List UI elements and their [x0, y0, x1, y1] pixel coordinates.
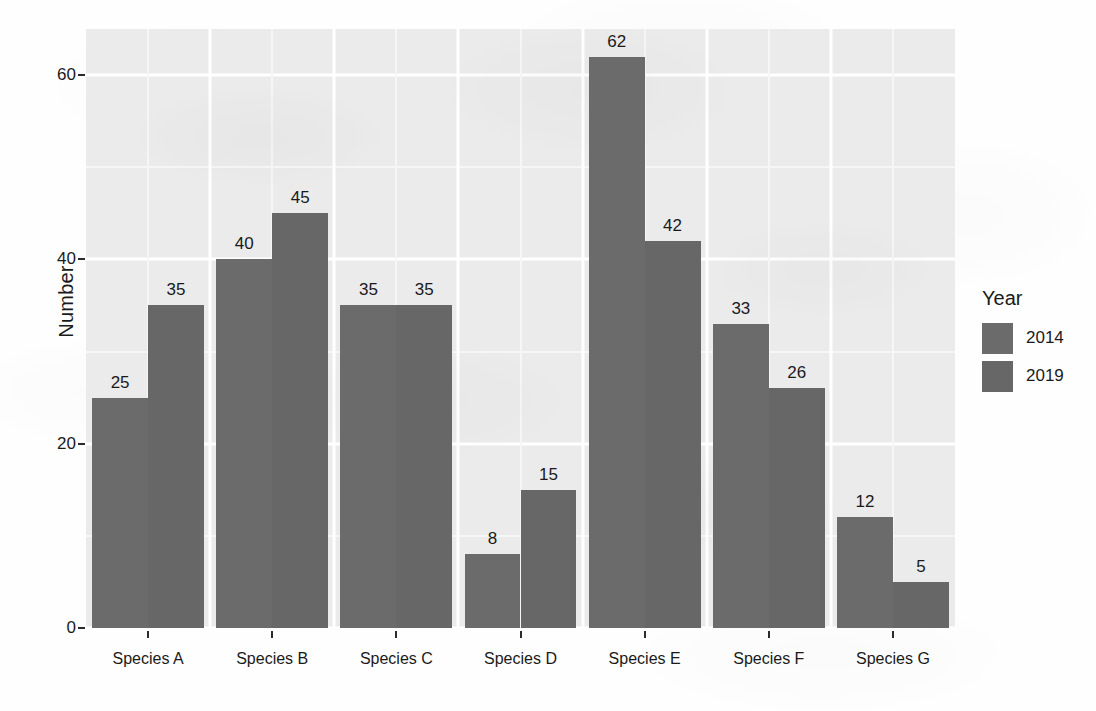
- y-axis-tick-label: 0: [24, 618, 76, 638]
- x-axis-tick-label-species-a: Species A: [112, 650, 183, 668]
- bar-species-c-2014[interactable]: [340, 305, 396, 628]
- x-axis-tick-mark: [147, 631, 149, 638]
- bar-value-label: 26: [787, 363, 806, 383]
- bar-chart-figure: Number 0204060 2535404535358156242332612…: [0, 0, 1096, 711]
- x-axis-tick-label-species-b: Species B: [236, 650, 308, 668]
- x-axis-tick-label-species-g: Species G: [856, 650, 930, 668]
- legend-label-2019: 2019: [1026, 366, 1064, 386]
- legend-key-2014-swatch: [982, 323, 1013, 354]
- bar-value-label: 35: [167, 280, 186, 300]
- gridline-vertical-major: [457, 29, 460, 628]
- bar-value-label: 45: [291, 188, 310, 208]
- bar-value-label: 25: [111, 373, 130, 393]
- bar-value-label: 42: [663, 216, 682, 236]
- bar-value-label: 15: [539, 465, 558, 485]
- x-axis-tick-mark: [271, 631, 273, 638]
- y-axis-tick-mark: [78, 443, 85, 445]
- y-axis-tick-label: 60: [24, 65, 76, 85]
- y-axis-tick-mark: [78, 258, 85, 260]
- bar-species-b-2019[interactable]: [272, 213, 328, 628]
- gridline-vertical-major: [705, 29, 708, 628]
- x-axis-tick-mark: [892, 631, 894, 638]
- bar-value-label: 12: [856, 492, 875, 512]
- legend-label-2014: 2014: [1026, 328, 1064, 348]
- legend-item-2019[interactable]: 2019: [982, 357, 1092, 395]
- bar-species-g-2014[interactable]: [837, 517, 893, 628]
- x-axis-tick-mark: [768, 631, 770, 638]
- bar-species-f-2019[interactable]: [769, 388, 825, 628]
- y-axis-tick-label: 40: [24, 249, 76, 269]
- bar-species-e-2014[interactable]: [589, 57, 645, 628]
- bar-species-a-2019[interactable]: [148, 305, 204, 628]
- bar-value-label: 5: [916, 557, 925, 577]
- gridline-vertical-major: [829, 29, 832, 628]
- bar-value-label: 33: [731, 299, 750, 319]
- gridline-vertical-major: [581, 29, 584, 628]
- x-axis-tick-mark: [395, 631, 397, 638]
- x-axis-tick-label-species-d: Species D: [484, 650, 557, 668]
- bar-species-g-2019[interactable]: [893, 582, 949, 628]
- bar-species-d-2019[interactable]: [521, 490, 577, 628]
- x-axis-tick-mark: [644, 631, 646, 638]
- bar-species-f-2014[interactable]: [713, 324, 769, 628]
- gridline-vertical-major: [333, 29, 336, 628]
- bar-value-label: 35: [415, 280, 434, 300]
- bar-value-label: 40: [235, 234, 254, 254]
- bar-species-b-2014[interactable]: [216, 259, 272, 628]
- legend: Year 2014 2019: [982, 287, 1092, 395]
- plot-panel: 25354045353581562423326125: [86, 29, 955, 628]
- legend-item-2014[interactable]: 2014: [982, 319, 1092, 357]
- y-axis-tick-label: 20: [24, 434, 76, 454]
- bar-species-d-2014[interactable]: [465, 554, 521, 628]
- x-axis-tick-label-species-f: Species F: [733, 650, 804, 668]
- bar-value-label: 35: [359, 280, 378, 300]
- x-axis-tick-label-species-c: Species C: [360, 650, 433, 668]
- x-axis-tick-mark: [520, 631, 522, 638]
- legend-key-2019-swatch: [982, 361, 1013, 392]
- gridline-vertical-major: [209, 29, 212, 628]
- bar-species-c-2019[interactable]: [396, 305, 452, 628]
- legend-title: Year: [982, 287, 1092, 310]
- bar-value-label: 62: [607, 32, 626, 52]
- x-axis-tick-label-species-e: Species E: [609, 650, 681, 668]
- y-axis-tick-mark: [78, 627, 85, 629]
- y-axis-tick-mark: [78, 74, 85, 76]
- bar-value-label: 8: [488, 529, 497, 549]
- bar-species-a-2014[interactable]: [92, 398, 148, 628]
- bar-species-e-2019[interactable]: [645, 241, 701, 628]
